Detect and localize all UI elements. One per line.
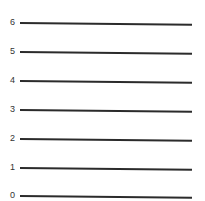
- y-tick-6: 6: [10, 17, 19, 27]
- y-tick-3: 3: [10, 104, 19, 114]
- gridline-3: [20, 109, 192, 112]
- gridline-1: [20, 167, 192, 170]
- y-tick-0: 0: [10, 190, 19, 200]
- gridline-6: [20, 22, 192, 25]
- y-tick-4: 4: [10, 75, 19, 85]
- chart-area: 6 5 4 3 2 1 0: [0, 0, 205, 201]
- y-tick-5: 5: [10, 46, 19, 56]
- y-tick-1: 1: [10, 162, 19, 172]
- gridline-2: [20, 138, 192, 141]
- y-tick-2: 2: [10, 133, 19, 143]
- gridline-5: [20, 51, 192, 54]
- gridline-4: [20, 80, 192, 83]
- gridline-0: [20, 195, 192, 198]
